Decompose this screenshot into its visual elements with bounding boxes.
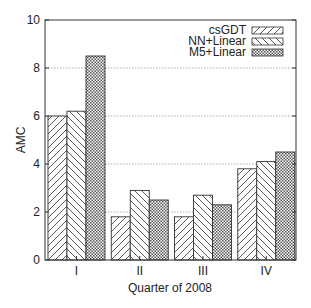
x-tick-label: I [75, 264, 78, 278]
bars [48, 56, 295, 260]
bar-chart: 0246810 IIIIIIIV AMC Quarter of 2008 csG… [0, 0, 311, 308]
x-tick-labels: IIIIIIIV [75, 264, 272, 278]
bar-nn-linear-iv [257, 162, 276, 260]
bar-nn-linear-i [67, 111, 86, 260]
y-axis-label: AMC [14, 126, 28, 153]
legend-swatch [252, 49, 283, 56]
legend: csGDTNN+LinearM5+Linear [188, 23, 283, 59]
bar-m5-linear-i [86, 56, 105, 260]
x-tick-label: III [198, 264, 208, 278]
bar-csgdt-i [48, 116, 67, 260]
bar-csgdt-iv [238, 169, 257, 260]
x-tick-label: II [136, 264, 143, 278]
x-tick-label: IV [261, 264, 272, 278]
y-tick-label: 10 [27, 13, 41, 27]
y-tick-label: 6 [33, 109, 40, 123]
bar-nn-linear-iii [194, 195, 213, 260]
legend-label: M5+Linear [189, 45, 246, 59]
bar-m5-linear-ii [149, 200, 168, 260]
y-tick-label: 0 [33, 253, 40, 267]
x-axis-label: Quarter of 2008 [128, 281, 212, 295]
bar-nn-linear-ii [130, 190, 149, 260]
bar-m5-linear-iv [276, 152, 295, 260]
y-tick-label: 2 [33, 205, 40, 219]
y-tick-label: 4 [33, 157, 40, 171]
bar-csgdt-ii [111, 217, 130, 260]
bar-m5-linear-iii [213, 205, 232, 260]
legend-swatch [252, 38, 283, 45]
bar-csgdt-iii [175, 217, 194, 260]
legend-swatch [252, 27, 283, 34]
y-tick-labels: 0246810 [27, 13, 41, 267]
y-tick-label: 8 [33, 61, 40, 75]
